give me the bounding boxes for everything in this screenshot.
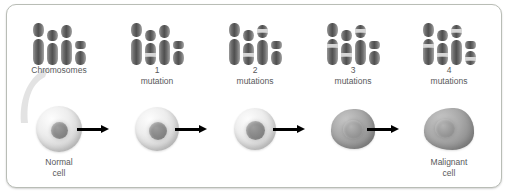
chromosome-arm-top (327, 23, 338, 37)
stage-label-normal: Chromosomes (7, 65, 111, 76)
stage-number: 4 (397, 65, 501, 76)
chromosome (173, 41, 184, 65)
chromosome-arm-top (465, 41, 476, 49)
chromosome (159, 25, 170, 65)
cell-label-line1: Normal (45, 157, 72, 167)
stage-1-mutation: 1 mutation (105, 5, 209, 187)
stage-4-mutations: 4 mutations Malignant cell (397, 5, 501, 187)
stage-caption: mutations (335, 76, 372, 86)
cell-malignant (397, 101, 501, 157)
diagram-panel: Chromosomes Normal cell (6, 4, 502, 188)
chromosome-mutated (243, 30, 254, 65)
chromosome-mutated (341, 30, 352, 65)
chromosome-arm-top (229, 23, 240, 37)
cell-label-malignant: Malignant cell (397, 157, 501, 178)
chromosome-arm-bottom (131, 39, 142, 65)
chromosome-group-4 (397, 13, 501, 65)
chromosome-mutated (257, 25, 268, 65)
chromosome-group-normal (7, 13, 111, 65)
stage-number: 1 (105, 65, 209, 76)
chromosome-arm-top (131, 23, 142, 37)
chromosome-mutated (327, 23, 338, 65)
mutation-band (451, 29, 462, 32)
chromosome-arm-top (271, 41, 282, 49)
cell-nucleus (435, 119, 455, 138)
mutation-band (437, 53, 448, 56)
chromosome-group-2 (203, 13, 307, 65)
cell-label-line2: cell (53, 168, 66, 178)
chromosome-arm-bottom (451, 40, 462, 65)
chromosome-mutated (437, 30, 448, 65)
stage-caption: Chromosomes (31, 65, 86, 75)
chromosome-arm-bottom (423, 39, 434, 65)
chromosome-group-1 (105, 13, 209, 65)
chromosome-arm-bottom (33, 39, 44, 65)
chromosome-mutated (145, 30, 156, 65)
chromosome-mutated (423, 23, 434, 65)
mutation-band (257, 29, 268, 32)
stage-label-4: 4 mutations (397, 65, 501, 86)
cell-nucleus (343, 120, 363, 139)
chromosome-arm-bottom (173, 51, 184, 65)
chromosome-arm-top (173, 41, 184, 49)
chromosome-arm-bottom (75, 51, 86, 65)
chromosome-arm-bottom (61, 40, 72, 65)
stage-number: 3 (301, 65, 405, 76)
chromosome (271, 41, 282, 65)
arrow-4 (367, 125, 399, 134)
chromosome (229, 23, 240, 65)
chromosome-arm-top (423, 23, 434, 37)
stage-2-mutations: 2 mutations (203, 5, 307, 187)
chromosome-arm-top (75, 41, 86, 49)
chromosome-mutated (465, 41, 476, 65)
chromosome-arm-bottom (271, 51, 282, 65)
stage-label-3: 3 mutations (301, 65, 405, 86)
chromosome (369, 41, 380, 65)
arrow-3 (273, 125, 305, 134)
cell-nucleus (149, 122, 167, 140)
chromosome-arm-bottom (369, 51, 380, 65)
stage-caption: mutations (431, 76, 468, 86)
chromosome-arm-top (437, 30, 448, 41)
chromosome (47, 30, 58, 65)
cell-label-line2: cell (443, 168, 456, 178)
mutation-band (423, 44, 434, 47)
chromosome-arm-top (369, 41, 380, 49)
stage-label-2: 2 mutations (203, 65, 307, 86)
cell-nucleus (246, 121, 265, 140)
mutation-band (341, 53, 352, 56)
cell-label-line1: Malignant (431, 157, 468, 167)
stage-caption: mutations (237, 76, 274, 86)
stage-label-1: 1 mutation (105, 65, 209, 86)
arrow-2 (175, 125, 207, 134)
chromosome-arm-top (47, 30, 58, 41)
chromosome-arm-top (145, 30, 156, 41)
cell-nucleus (51, 122, 68, 139)
chromosome-arm-bottom (47, 43, 58, 65)
chromosome-arm-bottom (355, 40, 366, 65)
cell-label-normal: Normal cell (7, 157, 111, 178)
chromosome-arm-bottom (327, 39, 338, 65)
chromosome-mutated (451, 25, 462, 65)
chromosome-arm-top (33, 23, 44, 37)
mutation-band (327, 44, 338, 47)
chromosome-arm-bottom (159, 40, 170, 65)
mutation-band (355, 29, 366, 32)
chromosome (131, 23, 142, 65)
chromosome-arm-top (243, 30, 254, 41)
chromosome-group-3 (301, 13, 405, 65)
chromosome-arm-bottom (229, 39, 240, 65)
chromosome (33, 23, 44, 65)
chromosome (75, 41, 86, 65)
chromosome-mutated (355, 25, 366, 65)
chromosome-arm-top (159, 25, 170, 38)
arrow-1 (77, 125, 109, 134)
chromosome-arm-bottom (257, 40, 268, 65)
stage-caption: mutation (141, 76, 174, 86)
chromosome-arm-top (61, 25, 72, 38)
chromosome-arm-top (341, 30, 352, 41)
mutation-band (243, 53, 254, 56)
chromosome (61, 25, 72, 65)
mutation-band (145, 53, 156, 56)
stage-3-mutations: 3 mutations (301, 5, 405, 187)
